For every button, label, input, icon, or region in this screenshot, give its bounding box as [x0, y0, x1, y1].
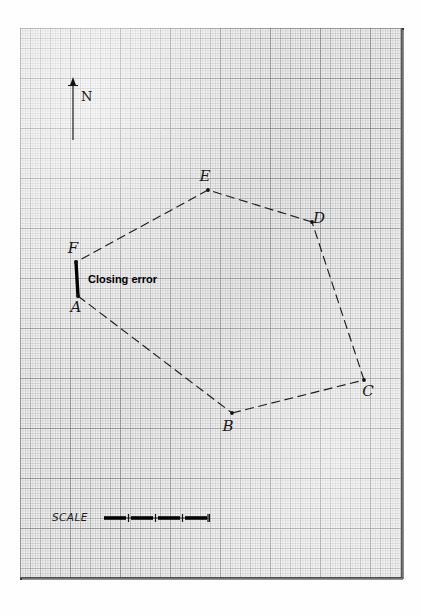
sheet-bottom-edge-shadow	[22, 577, 403, 580]
station-markers: ABCDEF	[67, 167, 374, 435]
traverse-leg-AB	[78, 296, 232, 413]
station-dot-F	[74, 260, 78, 264]
station-dot-E	[206, 188, 210, 192]
figure-page: N Closing error ABCDEF SCALE	[0, 0, 421, 616]
traverse-leg-EF	[76, 190, 208, 262]
station-label-D: D	[312, 209, 325, 227]
station-dot-B	[230, 411, 234, 415]
north-label: N	[81, 89, 92, 104]
station-label-C: C	[362, 382, 374, 400]
traverse-drawing: N Closing error ABCDEF SCALE	[20, 28, 401, 577]
station-label-E: E	[199, 167, 211, 185]
station-label-F: F	[67, 239, 79, 257]
station-label-B: B	[221, 417, 233, 435]
north-arrow-head	[70, 77, 76, 86]
station-label-A: A	[69, 298, 82, 316]
traverse-leg-CD	[312, 222, 364, 380]
sheet-right-edge-shadow	[401, 30, 404, 579]
traverse-leg-DE	[208, 190, 312, 222]
scale-label: SCALE	[52, 511, 88, 523]
traverse-leg-BC	[232, 380, 364, 413]
closing-error-line	[76, 262, 78, 296]
scale-bar: SCALE	[52, 511, 210, 523]
closing-error-label: Closing error	[88, 273, 158, 285]
north-arrow: N	[68, 77, 92, 140]
